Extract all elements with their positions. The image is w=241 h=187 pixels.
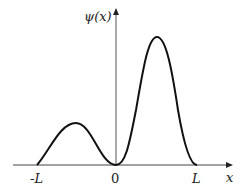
- x-axis-arrow-icon: [226, 162, 233, 168]
- x-axis-label: x: [226, 171, 233, 184]
- y-axis-arrow-icon: [113, 8, 119, 15]
- tick-label-neg-L: -L: [30, 172, 43, 185]
- y-axis-label: ψ(x): [84, 10, 112, 23]
- plot-canvas: [0, 0, 241, 187]
- wavefunction-plot: ψ(x) -L 0 L x: [0, 0, 241, 187]
- tick-label-zero: 0: [111, 172, 119, 185]
- tick-label-L: L: [192, 172, 201, 185]
- psi-curve: [37, 37, 197, 165]
